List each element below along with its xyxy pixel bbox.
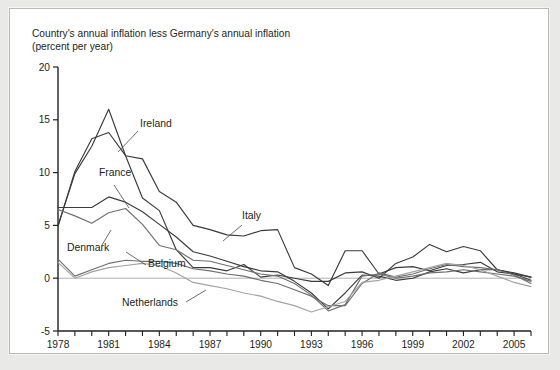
x-axis-tick-label: 2005 (503, 339, 526, 350)
x-axis-tick-label: 1996 (351, 339, 374, 350)
chart-plot-svg: -505101520197819811984198719901993199619… (10, 9, 548, 353)
series-annotation-france: France (99, 167, 132, 178)
x-axis-tick-label: 2002 (452, 339, 475, 350)
y-axis-tick-label: 5 (44, 220, 50, 231)
y-axis-tick-label: 10 (39, 167, 51, 178)
series-annotation-denmark: Denmark (67, 242, 110, 253)
series-annotation-italy: Italy (242, 210, 262, 221)
annotation-leader-line (223, 225, 242, 241)
x-axis-tick-label: 1993 (300, 339, 323, 350)
y-axis-tick-label: 0 (44, 273, 50, 284)
chart-figure: Country's annual inflation less Germany'… (9, 8, 549, 354)
series-line-denmark (58, 209, 531, 311)
x-axis-tick-label: 1987 (199, 339, 222, 350)
annotation-leader-line (186, 290, 206, 302)
y-axis-tick-label: -5 (41, 326, 50, 337)
series-line-france (58, 197, 531, 309)
x-axis-tick-label: 1981 (97, 339, 120, 350)
series-annotation-belgium: Belgium (148, 258, 186, 269)
series-line-ireland (58, 132, 531, 281)
series-line-italy (58, 109, 531, 285)
x-axis-tick-label: 1990 (249, 339, 272, 350)
y-axis-tick-label: 20 (39, 62, 51, 73)
series-annotation-netherlands: Netherlands (122, 297, 178, 308)
annotation-leader-line (126, 252, 146, 265)
x-axis-tick-label: 1978 (47, 339, 70, 350)
x-axis-tick-label: 1984 (148, 339, 171, 350)
annotation-leader-line (114, 185, 129, 208)
series-annotation-ireland: Ireland (140, 118, 172, 129)
y-axis-tick-label: 15 (39, 114, 51, 125)
x-axis-tick-label: 1999 (401, 339, 424, 350)
